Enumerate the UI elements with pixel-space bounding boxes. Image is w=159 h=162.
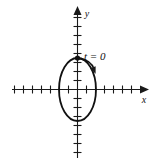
x-axis-label: x: [141, 94, 147, 105]
parametric-curve-figure: x y: [0, 0, 159, 162]
start-point-label: t = 0: [84, 50, 106, 62]
y-axis-label: y: [84, 8, 90, 19]
coordinate-plane-svg: x y: [0, 0, 159, 162]
